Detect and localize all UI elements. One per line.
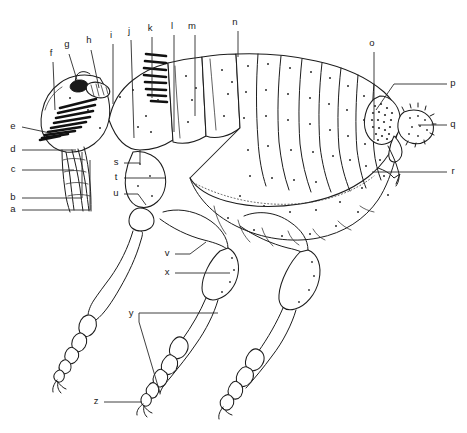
label-v: v [165,247,170,258]
label-h: h [86,34,91,45]
label-b: b [10,191,15,202]
metanotum [202,54,240,138]
hindleg-tarsus [219,349,264,419]
midleg-coxa-lower [160,219,228,250]
label-x: x [165,266,170,277]
label-n: n [232,16,237,27]
hindleg-femur [279,250,320,310]
midleg-coxa [163,210,228,248]
hindleg-coxa-lower [240,226,308,256]
leader-b [22,152,82,198]
label-m: m [188,20,196,31]
label-y: y [129,307,134,318]
label-s: s [114,156,119,167]
label-r: r [451,165,454,176]
label-g: g [64,38,69,49]
foreleg-femur [129,208,154,231]
flea-anatomy-figure: abcdefghijklmnopqrstuvxyz [0,0,467,433]
anal-stylet [378,168,400,184]
label-o: o [369,37,374,48]
leader-v [175,242,206,254]
label-c: c [11,163,16,174]
label-u: u [113,187,118,198]
label-q: q [450,118,455,129]
flea-diagram-canvas: abcdefghijklmnopqrstuvxyz [0,0,467,433]
label-d: d [10,143,15,154]
foreleg-tibia [88,231,143,321]
label-p: p [450,77,455,88]
label-z: z [94,395,99,406]
lacinia-right [78,149,89,211]
foreleg-tarsus [53,315,97,393]
label-i: i [110,29,112,40]
label-j: j [127,25,130,36]
label-l: l [171,20,173,31]
label-k: k [148,22,153,33]
foreleg-coxa [125,152,165,208]
label-f: f [50,47,53,58]
label-a: a [10,203,16,214]
label-t: t [115,171,118,182]
terminal-claspers [398,110,434,144]
label-e: e [10,120,15,131]
mouthparts-group [62,147,91,212]
midleg-femur [202,248,239,300]
midleg-tarsus [137,337,188,417]
